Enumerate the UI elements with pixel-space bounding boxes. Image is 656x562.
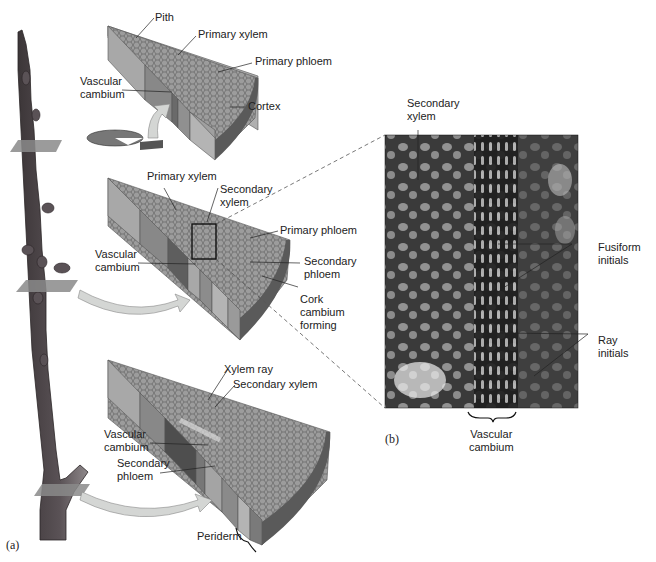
label-vascular-cambium-bottom: Vascular cambium	[104, 428, 149, 454]
label-primary-xylem-top: Primary xylem	[198, 28, 268, 41]
section-plane-middle	[16, 280, 78, 292]
section-plane-top	[10, 140, 62, 152]
label-periderm: Periderm	[197, 530, 242, 543]
micrograph	[385, 135, 578, 422]
zoom-line-top	[216, 135, 385, 224]
label-secondary-xylem-middle: Secondary xylem	[220, 183, 273, 209]
label-secondary-phloem-bottom: Secondary phloem	[117, 457, 170, 483]
stem-illustration	[10, 30, 90, 540]
label-vascular-cambium-top: Vascular cambium	[80, 75, 125, 101]
label-secondary-xylem-bottom: Secondary xylem	[233, 378, 317, 391]
label-primary-phloem-top: Primary phloem	[255, 55, 332, 68]
label-pith: Pith	[155, 11, 174, 24]
label-secondary-phloem-middle: Secondary phloem	[304, 255, 357, 281]
label-primary-xylem-middle: Primary xylem	[147, 170, 217, 183]
label-cork-cambium-forming: Cork cambium forming	[300, 293, 345, 332]
label-vascular-cambium-micrograph: Vascular cambium	[469, 428, 514, 454]
label-xylem-ray: Xylem ray	[224, 363, 273, 376]
label-cortex: Cortex	[248, 100, 280, 113]
stem-growth-figure: Pith Primary xylem Primary phloem Vascul…	[0, 0, 656, 562]
label-vascular-cambium-middle: Vascular cambium	[95, 248, 140, 274]
label-ray-initials: Ray initials	[598, 334, 629, 360]
label-primary-phloem-middle: Primary phloem	[280, 224, 357, 237]
vascular-cambium-brace	[468, 412, 516, 422]
label-fusiform-initials: Fusiform initials	[598, 241, 641, 267]
label-secondary-xylem-micrograph: Secondary xylem	[407, 97, 460, 123]
panel-label-b: (b)	[385, 432, 399, 447]
panel-label-a: (a)	[6, 538, 19, 553]
